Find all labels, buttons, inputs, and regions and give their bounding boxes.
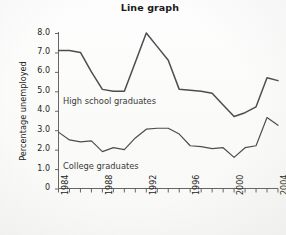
series-label-high-school: High school graduates xyxy=(63,96,156,106)
y-axis-ticks xyxy=(55,34,59,190)
x-axis-ticks xyxy=(59,189,279,193)
series-line-college-graduates xyxy=(59,118,279,158)
x-axis-tick-label: 1988 xyxy=(106,174,114,194)
line-chart-plot xyxy=(0,0,286,235)
x-axis-tick-label: 2000 xyxy=(237,174,245,194)
x-axis-tick-label: 1984 xyxy=(62,174,70,194)
x-axis-tick-label: 2004 xyxy=(281,174,286,194)
x-axis-tick-label: 1996 xyxy=(193,174,201,194)
series-label-college: College graduates xyxy=(63,161,139,171)
x-axis-tick-label: 1992 xyxy=(150,174,158,194)
